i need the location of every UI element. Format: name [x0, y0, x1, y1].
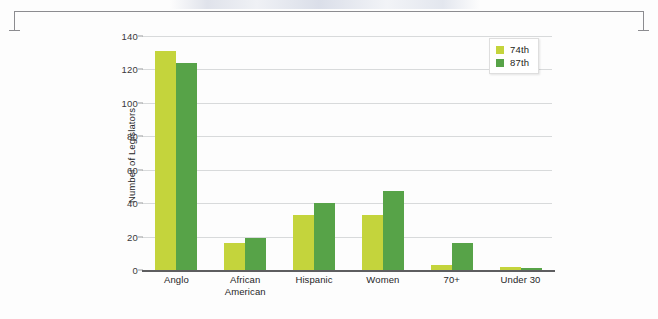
- x-axis-label: AfricanAmerican: [211, 274, 280, 298]
- chart-page: Number of Legislators 020406080100120140…: [0, 0, 658, 319]
- bracket-top-rule: [14, 11, 644, 12]
- bar[interactable]: [176, 63, 197, 270]
- y-axis-tick-label: 140: [100, 31, 138, 42]
- y-axis-tick-label: 60: [100, 164, 138, 175]
- bracket-foot-right: [638, 30, 649, 31]
- bar[interactable]: [383, 191, 404, 270]
- legend-label-74th: 74th: [510, 44, 529, 55]
- x-axis-label: Women: [348, 274, 417, 298]
- bar-group: [280, 36, 349, 270]
- legend-item[interactable]: 87th: [496, 56, 529, 69]
- x-axis-label: 70+: [417, 274, 486, 298]
- bar[interactable]: [362, 215, 383, 270]
- y-axis-ticks: 020406080100120140: [96, 36, 138, 270]
- y-axis-tick-label: 40: [100, 198, 138, 209]
- legend: 74th 87th: [489, 38, 539, 74]
- bar[interactable]: [521, 268, 542, 270]
- y-axis-tick-label: 120: [100, 64, 138, 75]
- bar[interactable]: [245, 238, 266, 270]
- legend-swatch-87th: [496, 59, 504, 67]
- bar-group: [417, 36, 486, 270]
- bar[interactable]: [224, 243, 245, 270]
- x-axis-labels: AngloAfricanAmericanHispanicWomen70+Unde…: [142, 274, 555, 298]
- bracket-foot-left: [9, 30, 20, 31]
- legend-item[interactable]: 74th: [496, 43, 529, 56]
- x-axis-line: [142, 270, 555, 272]
- bar[interactable]: [452, 243, 473, 270]
- bracket-arm-right: [643, 11, 644, 31]
- bracket-arm-left: [14, 11, 15, 31]
- y-axis-tick-label: 20: [100, 231, 138, 242]
- x-axis-label: Hispanic: [280, 274, 349, 298]
- scan-artifact-strip: [170, 0, 480, 9]
- bar[interactable]: [500, 267, 521, 270]
- y-axis-tick-label: 0: [100, 265, 138, 276]
- bar[interactable]: [293, 215, 314, 270]
- bar-group: [211, 36, 280, 270]
- y-axis-tick-label: 100: [100, 97, 138, 108]
- bar[interactable]: [431, 265, 452, 270]
- bar[interactable]: [155, 51, 176, 270]
- x-axis-label: Anglo: [142, 274, 211, 298]
- legend-swatch-74th: [496, 46, 504, 54]
- y-axis-tick-label: 80: [100, 131, 138, 142]
- bar-group: [348, 36, 417, 270]
- x-axis-label: Under 30: [486, 274, 555, 298]
- bar[interactable]: [314, 203, 335, 270]
- bar-group: [142, 36, 211, 270]
- legend-label-87th: 87th: [510, 57, 529, 68]
